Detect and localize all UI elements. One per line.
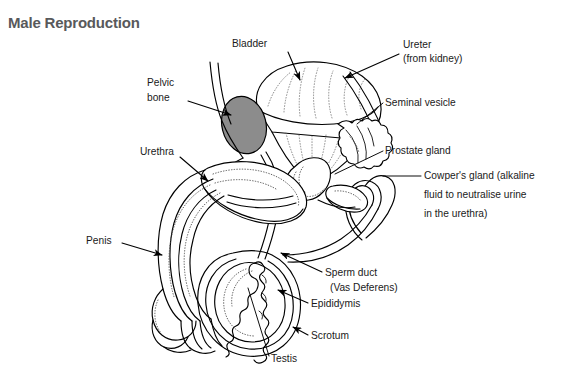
leader-ureter	[345, 54, 399, 78]
diagram-page: Male Reproduction	[0, 0, 577, 386]
label-pelvic-bone: Pelvic bone	[147, 77, 177, 103]
label-cowpers-gland: Cowper's gland (alkaline fluid to neutra…	[424, 170, 538, 219]
label-seminal-vesicle: Seminal vesicle	[385, 97, 456, 108]
label-scrotum: Scrotum	[311, 330, 349, 341]
leader-urethra	[180, 157, 208, 181]
male-reproductive-system-diagram: Bladder Ureter (from kidney) Pelvic bone…	[0, 0, 577, 386]
label-testis: Testis	[271, 353, 297, 364]
leader-penis	[122, 243, 162, 255]
label-bladder: Bladder	[232, 38, 268, 49]
label-urethra: Urethra	[140, 146, 174, 157]
label-penis: Penis	[86, 235, 111, 246]
anatomy-drawing	[152, 62, 395, 363]
label-epididymis: Epididymis	[311, 298, 360, 309]
label-sperm-duct: Sperm duct (Vas Deferens)	[325, 267, 398, 293]
label-prostate-gland: Prostate gland	[385, 145, 451, 156]
label-ureter: Ureter (from kidney)	[403, 39, 462, 64]
